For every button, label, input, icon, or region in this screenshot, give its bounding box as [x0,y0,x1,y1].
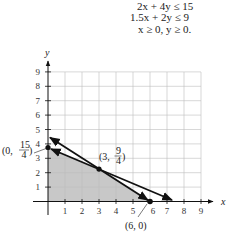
svg-text:6: 6 [151,206,156,216]
x-tick-labels: 1 2 3 4 5 6 7 8 9 [63,206,204,216]
svg-text:5: 5 [131,206,136,216]
svg-text:8: 8 [36,81,41,91]
svg-text:3: 3 [97,206,102,216]
y-tick-labels: 1 2 3 4 5 6 7 8 9 [36,67,41,192]
label-point-3-9-4: (3, 9 4 ) [99,145,125,166]
svg-text:6: 6 [36,110,41,120]
point-0-15-4 [45,145,50,150]
point-6-0 [147,199,153,205]
label-point-6-0: (6, 0) [125,204,147,232]
svg-text:9: 9 [199,206,204,216]
svg-text:(6, 0): (6, 0) [125,220,147,232]
chart: 1 2 3 4 5 6 7 8 9 1 2 3 4 5 6 7 8 9 x y … [0,0,233,233]
svg-text:4: 4 [114,206,119,216]
svg-text:): ) [29,145,32,157]
y-axis-label: y [44,47,50,58]
svg-text:1: 1 [36,182,41,192]
svg-text:8: 8 [182,206,187,216]
svg-text:5: 5 [36,125,41,135]
svg-text:7: 7 [36,96,41,106]
svg-text:2: 2 [80,206,85,216]
svg-text:(0,: (0, [2,145,13,157]
svg-text:4: 4 [116,155,121,166]
svg-text:4: 4 [36,139,41,149]
point-3-9-4 [96,167,101,172]
x-axis-label: x [220,196,226,207]
svg-text:2: 2 [36,168,41,178]
svg-text:(3,: (3, [99,151,110,163]
svg-text:4: 4 [22,149,27,160]
svg-text:7: 7 [165,206,170,216]
svg-text:): ) [122,151,125,163]
svg-text:3: 3 [36,153,41,163]
svg-text:9: 9 [36,67,41,77]
svg-text:1: 1 [63,206,68,216]
